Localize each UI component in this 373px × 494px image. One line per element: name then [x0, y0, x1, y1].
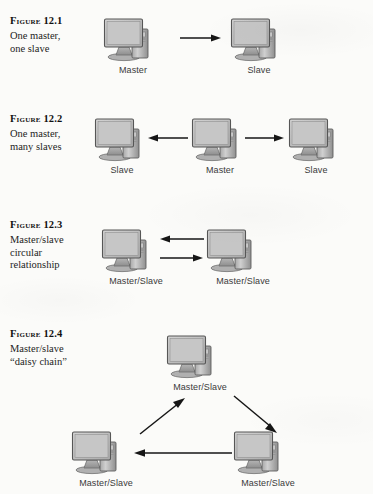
desktop-computer-icon — [93, 113, 155, 163]
figure-12-2-label: Figure 12.2 — [10, 112, 94, 125]
figure-12-1-label: Figure 12.1 — [10, 14, 94, 27]
arrow-bottom-left-to-top — [138, 396, 186, 436]
figure-12-4-caption: Figure 12.4 Master/slave “daisy chain” — [10, 327, 94, 368]
node-label-master: Master — [119, 65, 147, 75]
desktop-computer-icon — [232, 426, 294, 476]
figure-12-2-caption: Figure 12.2 One master, many slaves — [10, 112, 94, 153]
node-label-slave-right: Slave — [304, 165, 327, 175]
desktop-computer-icon — [287, 113, 349, 163]
desktop-computer-icon — [229, 13, 291, 63]
figure-12-4-label: Figure 12.4 — [10, 327, 94, 340]
figure-12-3-label: Figure 12.3 — [10, 218, 94, 231]
node-label-master-slave-bottom-right: Master/Slave — [241, 478, 295, 488]
figure-12-1-text: One master, one slave — [10, 30, 94, 55]
arrow-left-to-right — [160, 253, 204, 263]
arrow-master-to-right-slave — [245, 133, 285, 143]
desktop-computer-icon — [165, 330, 227, 380]
arrow-master-to-left-slave — [148, 133, 188, 143]
desktop-computer-icon — [70, 426, 132, 476]
node-label-master-slave-bottom-left: Master/Slave — [79, 478, 133, 488]
node-label-master-slave-right: Master/Slave — [216, 276, 270, 286]
desktop-computer-icon — [205, 224, 267, 274]
figure-12-1-caption: Figure 12.1 One master, one slave — [10, 14, 94, 55]
figure-12-3-text: Master/slave circular relationship — [10, 234, 94, 272]
desktop-computer-icon — [190, 113, 252, 163]
arrow-right-to-left — [160, 234, 204, 244]
figure-12-4-text: Master/slave “daisy chain” — [10, 343, 94, 368]
arrow-master-to-slave — [180, 33, 222, 43]
desktop-computer-icon — [102, 13, 164, 63]
textbook-figure-page: Figure 12.1 One master, one slave — [0, 0, 373, 494]
arrow-bottom-right-to-bottom-left — [134, 448, 232, 458]
node-label-master-slave-left: Master/Slave — [109, 276, 163, 286]
node-label-master-slave-top: Master/Slave — [173, 382, 227, 392]
node-label-master: Master — [206, 165, 234, 175]
figure-12-3-caption: Figure 12.3 Master/slave circular relati… — [10, 218, 94, 272]
desktop-computer-icon — [100, 224, 162, 274]
node-label-slave: Slave — [247, 65, 270, 75]
figure-12-2-text: One master, many slaves — [10, 128, 94, 153]
node-label-slave-left: Slave — [110, 165, 133, 175]
